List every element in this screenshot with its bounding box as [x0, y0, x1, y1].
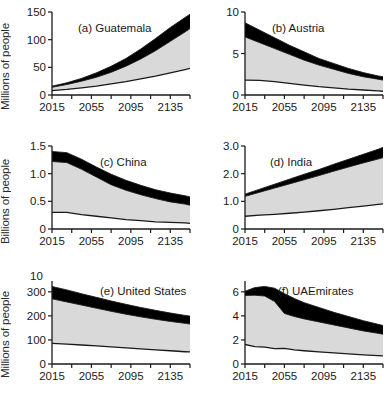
x-tick-label-f: 2015	[232, 370, 258, 382]
multi-panel-area-chart-figure: Millions of people Billions of people Mi…	[0, 0, 390, 404]
x-tick-label-f: 2055	[272, 370, 298, 382]
x-tick-label-f: 2095	[311, 370, 337, 382]
y-tick-label-f: 0	[199, 358, 239, 370]
y-tick-label-f: 6	[199, 286, 239, 298]
x-tick-label-f: 2135	[350, 370, 376, 382]
y-tick-label-f: 4	[199, 310, 239, 322]
panel-title-f: (f) UAEmirates	[278, 285, 353, 297]
chart-panel-f: 02462015205520952135(f) UAEmirates	[0, 0, 390, 404]
y-tick-label-f: 2	[199, 334, 239, 346]
